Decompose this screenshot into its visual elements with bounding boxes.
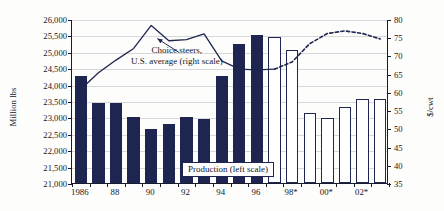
y-axis-left-tick-label: 26,000 <box>43 15 67 25</box>
plot-area <box>71 20 388 184</box>
y-axis-right-tick-label: 35 <box>394 179 403 189</box>
line-series-annotation-line1: Choice steers, <box>131 45 223 56</box>
y-axis-right-labels: 35404550556065707580 <box>394 20 428 184</box>
x-axis-tick-label: 90 <box>146 187 155 197</box>
y-axis-right-tick-label: 40 <box>394 161 403 171</box>
x-axis-tick-label: 1986 <box>71 187 89 197</box>
y-axis-left-tick-label: 21,000 <box>43 179 67 189</box>
y-axis-left-labels: 21,00021,50022,00022,50023,00023,50024,0… <box>0 20 67 184</box>
x-axis-tick-label: 00* <box>320 187 333 197</box>
y-axis-right-tick-label: 75 <box>394 33 403 43</box>
y-axis-left-tick-label: 24,500 <box>43 64 67 74</box>
y-axis-left-tick-label: 22,500 <box>43 130 67 140</box>
bar-series-legend: Production (left scale) <box>182 162 274 177</box>
y-axis-left-tick-label: 23,500 <box>43 97 67 107</box>
y-axis-left-tick-label: 23,000 <box>43 113 67 123</box>
x-axis-tick-label: 88 <box>111 187 120 197</box>
y-axis-right-tick-label: 70 <box>394 51 403 61</box>
line-series-annotation-line2: U.S. average (right scale) <box>131 56 223 67</box>
x-axis-tick-label: 92 <box>181 187 190 197</box>
y-axis-left-tick-label: 22,000 <box>43 146 67 156</box>
x-axis-tick <box>389 183 390 187</box>
y-axis-left-tick-label: 24,000 <box>43 81 67 91</box>
x-axis-tick-label: 96 <box>252 187 261 197</box>
y-axis-left-tick-label: 25,000 <box>43 48 67 58</box>
y-axis-right-tick-label: 80 <box>394 15 403 25</box>
y-axis-left-tick-label: 25,500 <box>43 31 67 41</box>
annotation-arrowhead-icon <box>157 39 163 44</box>
y-axis-right-tick-label: 50 <box>394 124 403 134</box>
chart-figure: Million lbs $/cwt 21,00021,50022,00022,5… <box>0 0 444 211</box>
line-series-annotation: Choice steers, U.S. average (right scale… <box>131 45 223 67</box>
y-axis-right-tick-label: 45 <box>394 143 403 153</box>
y-axis-right-tick-label: 55 <box>394 106 403 116</box>
line-series-choice-steers <box>72 20 389 184</box>
x-axis-tick-label: 02* <box>355 187 368 197</box>
x-axis-tick-label: 94 <box>216 187 225 197</box>
y-axis-left-tick-label: 21,500 <box>43 163 67 173</box>
line-dashed-forecast-segment <box>275 31 381 69</box>
y-axis-right-tick-label: 60 <box>394 88 403 98</box>
x-axis-tick-label: 98* <box>285 187 298 197</box>
y-axis-right-tick-label: 65 <box>394 70 403 80</box>
